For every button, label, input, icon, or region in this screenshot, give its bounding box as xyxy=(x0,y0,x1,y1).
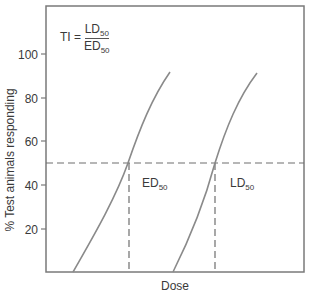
denominator-main: ED xyxy=(84,39,101,53)
formula-numerator: LD50 xyxy=(85,23,109,37)
x-axis-label: Dose xyxy=(161,279,189,292)
formula-denominator: ED50 xyxy=(84,40,110,54)
numerator-subscript: 50 xyxy=(100,29,109,38)
reference-lines xyxy=(46,163,304,272)
denominator-subscript: 50 xyxy=(101,46,110,55)
y-tick-100: 100 xyxy=(8,48,38,62)
ed50-subscript: 50 xyxy=(159,183,168,192)
y-axis-label: % Test animals responding xyxy=(3,88,17,231)
ld50-label: LD50 xyxy=(230,177,254,189)
ed50-main: ED xyxy=(142,176,159,190)
ed50-label: ED50 xyxy=(142,177,168,189)
formula-lhs: TI = xyxy=(60,31,81,43)
ld50-subscript: 50 xyxy=(245,183,254,192)
ld50-main: LD xyxy=(230,176,245,190)
ed-curve xyxy=(73,72,170,272)
dose-response-chart xyxy=(0,0,310,292)
therapeutic-index-formula: LD50 ED50 xyxy=(84,23,110,54)
numerator-main: LD xyxy=(85,22,100,36)
